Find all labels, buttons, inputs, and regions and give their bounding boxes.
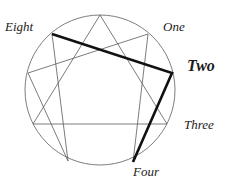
node-label-one: One <box>163 20 185 33</box>
enneagram-canvas <box>0 0 228 188</box>
node-label-three: Three <box>184 118 214 131</box>
outer-circle <box>25 15 175 165</box>
enneagram-diagram: Eight One Two Three Four <box>0 0 228 188</box>
highlighted-path-8-2-4 <box>52 34 172 162</box>
hexad-1-4-2-8-5-7 <box>28 34 172 162</box>
node-label-two: Two <box>187 58 215 74</box>
node-label-eight: Eight <box>5 20 33 33</box>
node-label-four: Four <box>133 165 159 178</box>
